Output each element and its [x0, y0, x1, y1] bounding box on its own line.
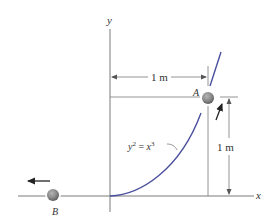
dimension-horizontal-label: 1 m	[151, 71, 168, 83]
point-b-label: B	[52, 206, 58, 217]
curve-path	[110, 113, 201, 196]
x-axis-label: x	[255, 189, 261, 201]
dimension-arrowhead-top	[227, 98, 232, 104]
curve-path-extension	[210, 52, 221, 86]
point-a-label: A	[192, 87, 200, 98]
dimension-vertical-label: 1 m	[217, 141, 234, 153]
equation-leader-line	[167, 144, 177, 150]
curve-equation-label: y2 = x3	[127, 140, 155, 152]
ball-b	[47, 189, 59, 201]
velocity-arrow-a	[216, 104, 222, 120]
path-diagram: y x 1 m 1 m y2 = x3 A B	[0, 0, 278, 224]
y-axis-label: y	[106, 14, 112, 26]
dimension-arrowhead-left	[111, 75, 117, 80]
dimension-arrowhead-bottom	[227, 189, 232, 195]
ball-a	[202, 92, 214, 104]
